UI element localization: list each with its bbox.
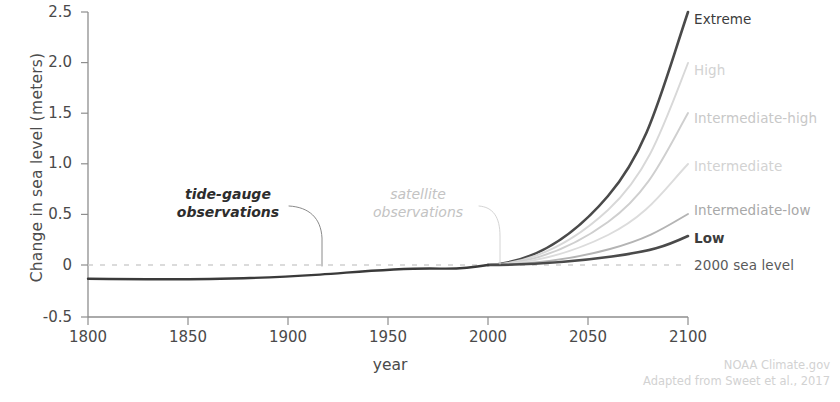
annotation-satellite: satellite observations bbox=[358, 186, 478, 221]
y-tick-marks bbox=[81, 12, 88, 317]
x-tick-label-1900: 1900 bbox=[253, 328, 323, 346]
credit-source: NOAA Climate.gov bbox=[724, 358, 830, 372]
series-line-intermediate-low bbox=[488, 214, 688, 265]
y-tick-label-0-5: 0.5 bbox=[26, 205, 72, 223]
credit-adaptation: Adapted from Sweet et al., 2017 bbox=[643, 374, 830, 388]
y-tick-label-minus-0-5: -0.5 bbox=[26, 308, 72, 326]
tide-gauge-leader-line bbox=[289, 206, 322, 266]
annotation-tide-gauge-line1: tide-gauge bbox=[168, 186, 288, 204]
x-tick-label-1850: 1850 bbox=[153, 328, 223, 346]
x-axis-title: year bbox=[350, 356, 430, 374]
y-tick-label-0: 0 bbox=[26, 256, 72, 274]
x-tick-label-1800: 1800 bbox=[53, 328, 123, 346]
x-tick-label-1950: 1950 bbox=[353, 328, 423, 346]
y-tick-label-1-5: 1.5 bbox=[26, 104, 72, 122]
series-label-2000-sea-level: 2000 sea level bbox=[694, 257, 794, 273]
x-tick-label-2050: 2050 bbox=[553, 328, 623, 346]
series-label-high: High bbox=[694, 62, 725, 78]
axis-lines bbox=[88, 12, 688, 317]
series-line-observations bbox=[88, 265, 488, 279]
x-tick-label-2100: 2100 bbox=[653, 328, 723, 346]
series-label-intermediate-low: Intermediate-low bbox=[694, 202, 811, 218]
annotation-satellite-line1: satellite bbox=[358, 186, 478, 204]
sea-level-rise-chart: Change in sea level (meters) 2.5 2.0 1.5… bbox=[0, 0, 840, 402]
series-line-intermediate bbox=[488, 164, 688, 265]
series-label-low: Low bbox=[694, 230, 725, 246]
y-tick-label-1-0: 1.0 bbox=[26, 154, 72, 172]
x-tick-marks bbox=[88, 317, 688, 325]
x-tick-label-2000: 2000 bbox=[453, 328, 523, 346]
satellite-leader-line bbox=[479, 206, 500, 264]
series-label-extreme: Extreme bbox=[694, 11, 752, 27]
annotation-tide-gauge-line2: observations bbox=[168, 204, 288, 222]
series-label-intermediate-high: Intermediate-high bbox=[694, 110, 817, 126]
annotation-satellite-line2: observations bbox=[358, 204, 478, 222]
y-tick-label-2-0: 2.0 bbox=[26, 53, 72, 71]
series-label-intermediate: Intermediate bbox=[694, 158, 782, 174]
y-tick-label-2-5: 2.5 bbox=[26, 3, 72, 21]
annotation-tide-gauge: tide-gauge observations bbox=[168, 186, 288, 221]
